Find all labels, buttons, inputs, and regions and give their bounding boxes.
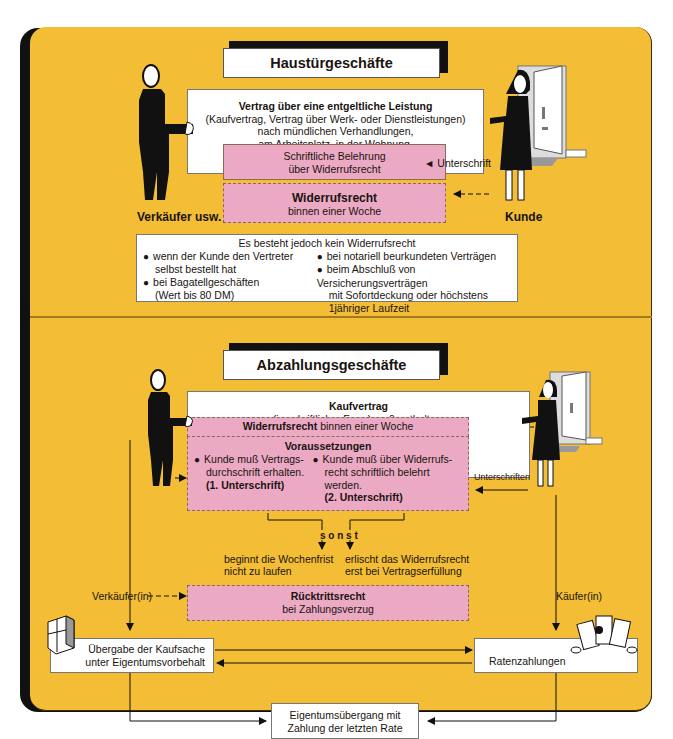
requirement-item: Kunde muß über Widerrufs-: [313, 453, 468, 467]
requirement-cont: (2. Unterschrift): [313, 491, 468, 504]
section-title-abzahlung: Abzahlungsgeschäfte: [223, 350, 440, 380]
exception-item: bei notariell beurkundeten Verträgen: [317, 250, 511, 264]
customer-label: Kunde: [505, 210, 542, 224]
raten-label: Ratenzahlungen: [489, 655, 565, 667]
belehrung-line: über Widerrufsrecht: [224, 163, 445, 176]
customer-door-icon: [480, 62, 610, 212]
requirement-cont: (1. Unterschrift): [194, 479, 313, 492]
exceptions-box: Es besteht jedoch kein Widerrufsrecht we…: [136, 234, 518, 302]
contract-heading: Vertrag über eine entgeltliche Leistung: [188, 100, 483, 113]
abz-widerruf-box: Widerrufsrecht binnen einer Woche: [187, 417, 469, 437]
voraussetzungen-heading: Voraussetzungen: [188, 440, 468, 453]
outcome-left: beginnt die Wochenfristnicht zu laufen: [224, 553, 334, 577]
buyer-label-bottom: Käufer(in): [556, 590, 602, 602]
sonst-label: s o n s t: [320, 530, 358, 542]
kaufvertrag-heading: Kaufvertrag: [188, 400, 529, 413]
seller-figure-icon: [145, 368, 195, 498]
exception-item-cont: 1jähriger Laufzeit: [317, 302, 511, 315]
ruecktritt-sub: bei Zahlungsverzug: [188, 603, 468, 616]
widerruf-heading: Widerrufsrecht: [224, 191, 445, 205]
package-icon: [44, 612, 80, 656]
eigentum-line: Eigentumsübergang mit: [272, 709, 418, 722]
ruecktritt-heading: Rücktrittsrecht: [188, 590, 468, 603]
seller-label-bottom: Verkäufer(in): [92, 590, 152, 602]
requirement-cont: recht schriftlich belehrt werden.: [313, 466, 468, 491]
widerruf-rest: binnen einer Woche: [317, 420, 413, 432]
belehrung-line: Schriftliche Belehrung: [224, 150, 445, 163]
contract-line: (Kaufvertrag, Vertrag über Werk- oder Di…: [188, 113, 483, 126]
uebergabe-line: unter Eigentumsvorbehalt: [51, 656, 205, 669]
ruecktritt-box: Rücktrittsrecht bei Zahlungsverzug: [187, 585, 469, 621]
seller-label: Verkäufer usw.: [137, 210, 221, 224]
widerruf-heading: Widerrufsrecht: [243, 420, 318, 432]
exceptions-heading: Es besteht jedoch kein Widerrufsrecht: [143, 237, 511, 250]
exception-item: beim Abschluß von Versicherungsverträgen: [317, 263, 511, 289]
customer-door-icon: [520, 368, 610, 493]
belehrung-box: Schriftliche Belehrung über Widerrufsrec…: [223, 144, 446, 180]
voraussetzungen-box: Voraussetzungen Kunde muß Vertrags- durc…: [187, 436, 469, 511]
requirement-cont: durchschrift erhalten.: [194, 466, 313, 479]
widerruf-box: Widerrufsrecht binnen einer Woche: [223, 183, 446, 223]
seller-figure-icon: [135, 62, 195, 212]
money-icon: [570, 612, 638, 662]
eigentum-line: Zahlung der letzten Rate: [272, 722, 418, 735]
exception-item: bei Bagatellgeschäften: [143, 276, 317, 290]
contract-line: nach mündlichen Verhandlungen,: [188, 125, 483, 138]
outcome-right: erlischt das Widerrufsrechterst bei Vert…: [345, 553, 469, 577]
exception-item-cont: mit Sofortdeckung oder höchstens: [317, 289, 511, 302]
eigentum-box: Eigentumsübergang mit Zahlung der letzte…: [271, 703, 419, 739]
exception-item-cont: selbst bestellt hat: [143, 263, 317, 276]
exception-item: wenn der Kunde den Vertreter: [143, 250, 317, 264]
widerruf-sub: binnen einer Woche: [224, 205, 445, 218]
section-title-haustuer: Haustürgeschäfte: [223, 48, 440, 78]
requirement-item: Kunde muß Vertrags-: [194, 453, 313, 467]
exception-item-cont: (Wert bis 80 DM): [143, 289, 317, 302]
